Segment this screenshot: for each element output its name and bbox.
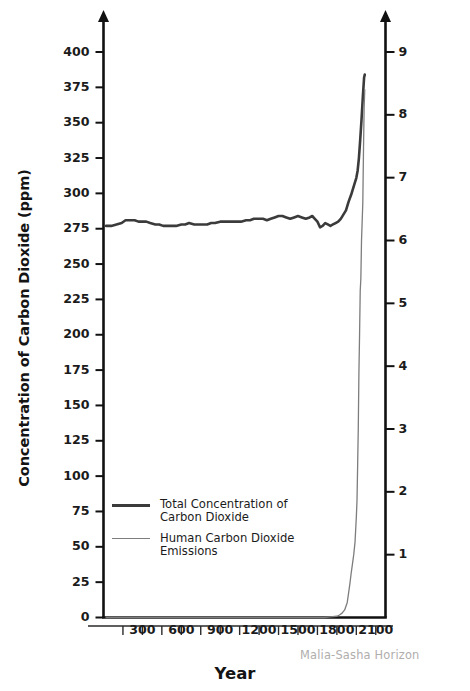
legend-line-icon	[112, 532, 150, 546]
right-tick-label: 6	[399, 234, 421, 246]
left-tick-label: 25	[44, 576, 90, 588]
left-tick-label: 350	[44, 116, 90, 128]
co2-chart-figure: Concentration of Carbon Dioxide (ppm) Hu…	[0, 0, 470, 691]
right-tick-label: 3	[399, 423, 421, 435]
left-tick-label: 0	[44, 611, 90, 623]
left-tick-label: 125	[44, 434, 90, 446]
right-tick-label: 4	[399, 360, 421, 372]
watermark-text: Malia-Sasha Horizon	[300, 648, 420, 662]
right-tick-label: 9	[399, 46, 421, 58]
legend-item-label: Total Concentration ofCarbon Dioxide	[160, 498, 288, 525]
legend-item-label: Human Carbon DioxideEmissions	[160, 532, 294, 559]
left-tick-label: 50	[44, 540, 90, 552]
left-tick-label: 325	[44, 152, 90, 164]
right-tick-label: 5	[399, 297, 421, 309]
left-tick-label: 275	[44, 222, 90, 234]
left-tick-label: 375	[44, 81, 90, 93]
right-tick-label: 2	[399, 485, 421, 497]
right-tick-label: 7	[399, 171, 421, 183]
left-tick-label: 100	[44, 470, 90, 482]
left-tick-label: 175	[44, 364, 90, 376]
legend-line-icon	[112, 498, 150, 512]
right-tick-label: 8	[399, 108, 421, 120]
left-tick-label: 75	[44, 505, 90, 517]
left-tick-label: 250	[44, 258, 90, 270]
series-line	[106, 75, 365, 228]
left-tick-label: 225	[44, 293, 90, 305]
left-tick-label: 200	[44, 328, 90, 340]
right-tick-label: 1	[399, 548, 421, 560]
left-tick-label: 300	[44, 187, 90, 199]
x-tick-label: 2100	[346, 622, 406, 637]
legend-item: Total Concentration ofCarbon Dioxide	[112, 498, 302, 525]
chart-legend: Total Concentration ofCarbon DioxideHuma…	[112, 498, 302, 566]
legend-item: Human Carbon DioxideEmissions	[112, 532, 302, 559]
left-tick-label: 400	[44, 46, 90, 58]
left-tick-label: 150	[44, 399, 90, 411]
